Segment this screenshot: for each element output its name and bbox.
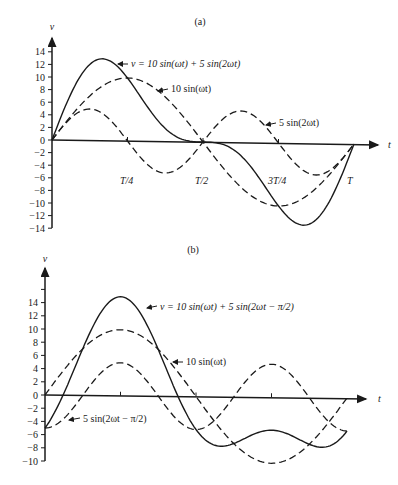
y-tick-label: −2 [34,147,45,158]
y-tick-label: 10 [28,324,38,335]
y-tick-label: 6 [40,97,45,108]
y-tick-label: 10 [35,72,45,83]
panel-b-sum-label: v = 10 sin(ωt) + 5 sin(2ωt − π/2) [160,301,294,313]
panel-a-harm-arrow-icon [266,123,276,125]
y-tick-label: −4 [34,160,45,171]
panel-a-sum-label: v = 10 sin(ωt) + 5 sin(2ωt) [131,58,241,70]
y-tick-label: 4 [33,363,38,374]
x-tick-label: T [347,175,354,186]
y-tick-label: −8 [34,185,45,196]
y-tick-label: 0 [33,390,38,401]
panel-a-fund-arrow-icon [158,89,168,91]
x-tick-label: T/4 [120,175,133,186]
y-tick-label: −12 [29,210,45,221]
figure-canvas: (a) v 14121086420−2−4−6−8−10−12−14 T/4T/… [0,0,398,485]
panel-b-x-axis [45,395,366,399]
y-tick-label: −6 [27,429,38,440]
y-tick-label: 8 [40,84,45,95]
panel-b-title: (b) [187,244,199,256]
panel-a-fund-label: 10 sin(ωt) [171,83,211,95]
y-tick-label: −8 [27,442,38,453]
y-tick-label: −10 [22,456,38,467]
panel-a-y-ticks: 14121086420−2−4−6−8−10−12−14 [29,46,52,233]
x-tick-label: T/2 [195,175,208,186]
y-tick-label: −4 [27,416,38,427]
panel-b-x-axis-label: t [378,393,381,404]
y-tick-label: 14 [28,297,38,308]
panel-a-harm-label: 5 sin(2ωt) [279,117,319,129]
panel-b-y-ticks: 14121086420−2−4−6−8−10 [22,289,45,466]
panel-b-harm-label: 5 sin(2ωt − π/2) [83,413,147,425]
y-tick-label: 12 [28,310,38,321]
panel-b-fund-label: 10 sin(ωt) [186,356,226,368]
y-tick-label: 8 [33,337,38,348]
y-tick-label: −10 [29,198,45,209]
y-tick-label: 0 [40,135,45,146]
y-tick-label: −2 [27,403,38,414]
y-tick-label: 6 [33,350,38,361]
panel-a-x-axis-label: t [388,139,391,150]
x-tick-label: 3T/4 [267,175,286,186]
y-tick-label: 4 [40,109,45,120]
panel-b-sum-curve [45,297,347,447]
panel-b-harm-arrow-icon [69,418,80,420]
panel-a: (a) v 14121086420−2−4−6−8−10−12−14 T/4T/… [29,16,391,234]
panel-b-y-axis-label: v [43,253,48,264]
panel-b: (b) v 14121086420−2−4−6−8−10 t v = 10 si… [22,244,381,467]
panel-b-sum-arrow-icon [147,306,157,308]
y-tick-label: −14 [29,223,45,234]
y-tick-label: 2 [40,122,45,133]
panel-a-y-axis-label: v [50,21,55,32]
y-tick-label: 12 [35,59,45,70]
panel-a-title: (a) [194,16,205,28]
y-tick-label: 14 [35,46,45,57]
y-tick-label: −6 [34,172,45,183]
y-tick-label: 2 [33,376,38,387]
